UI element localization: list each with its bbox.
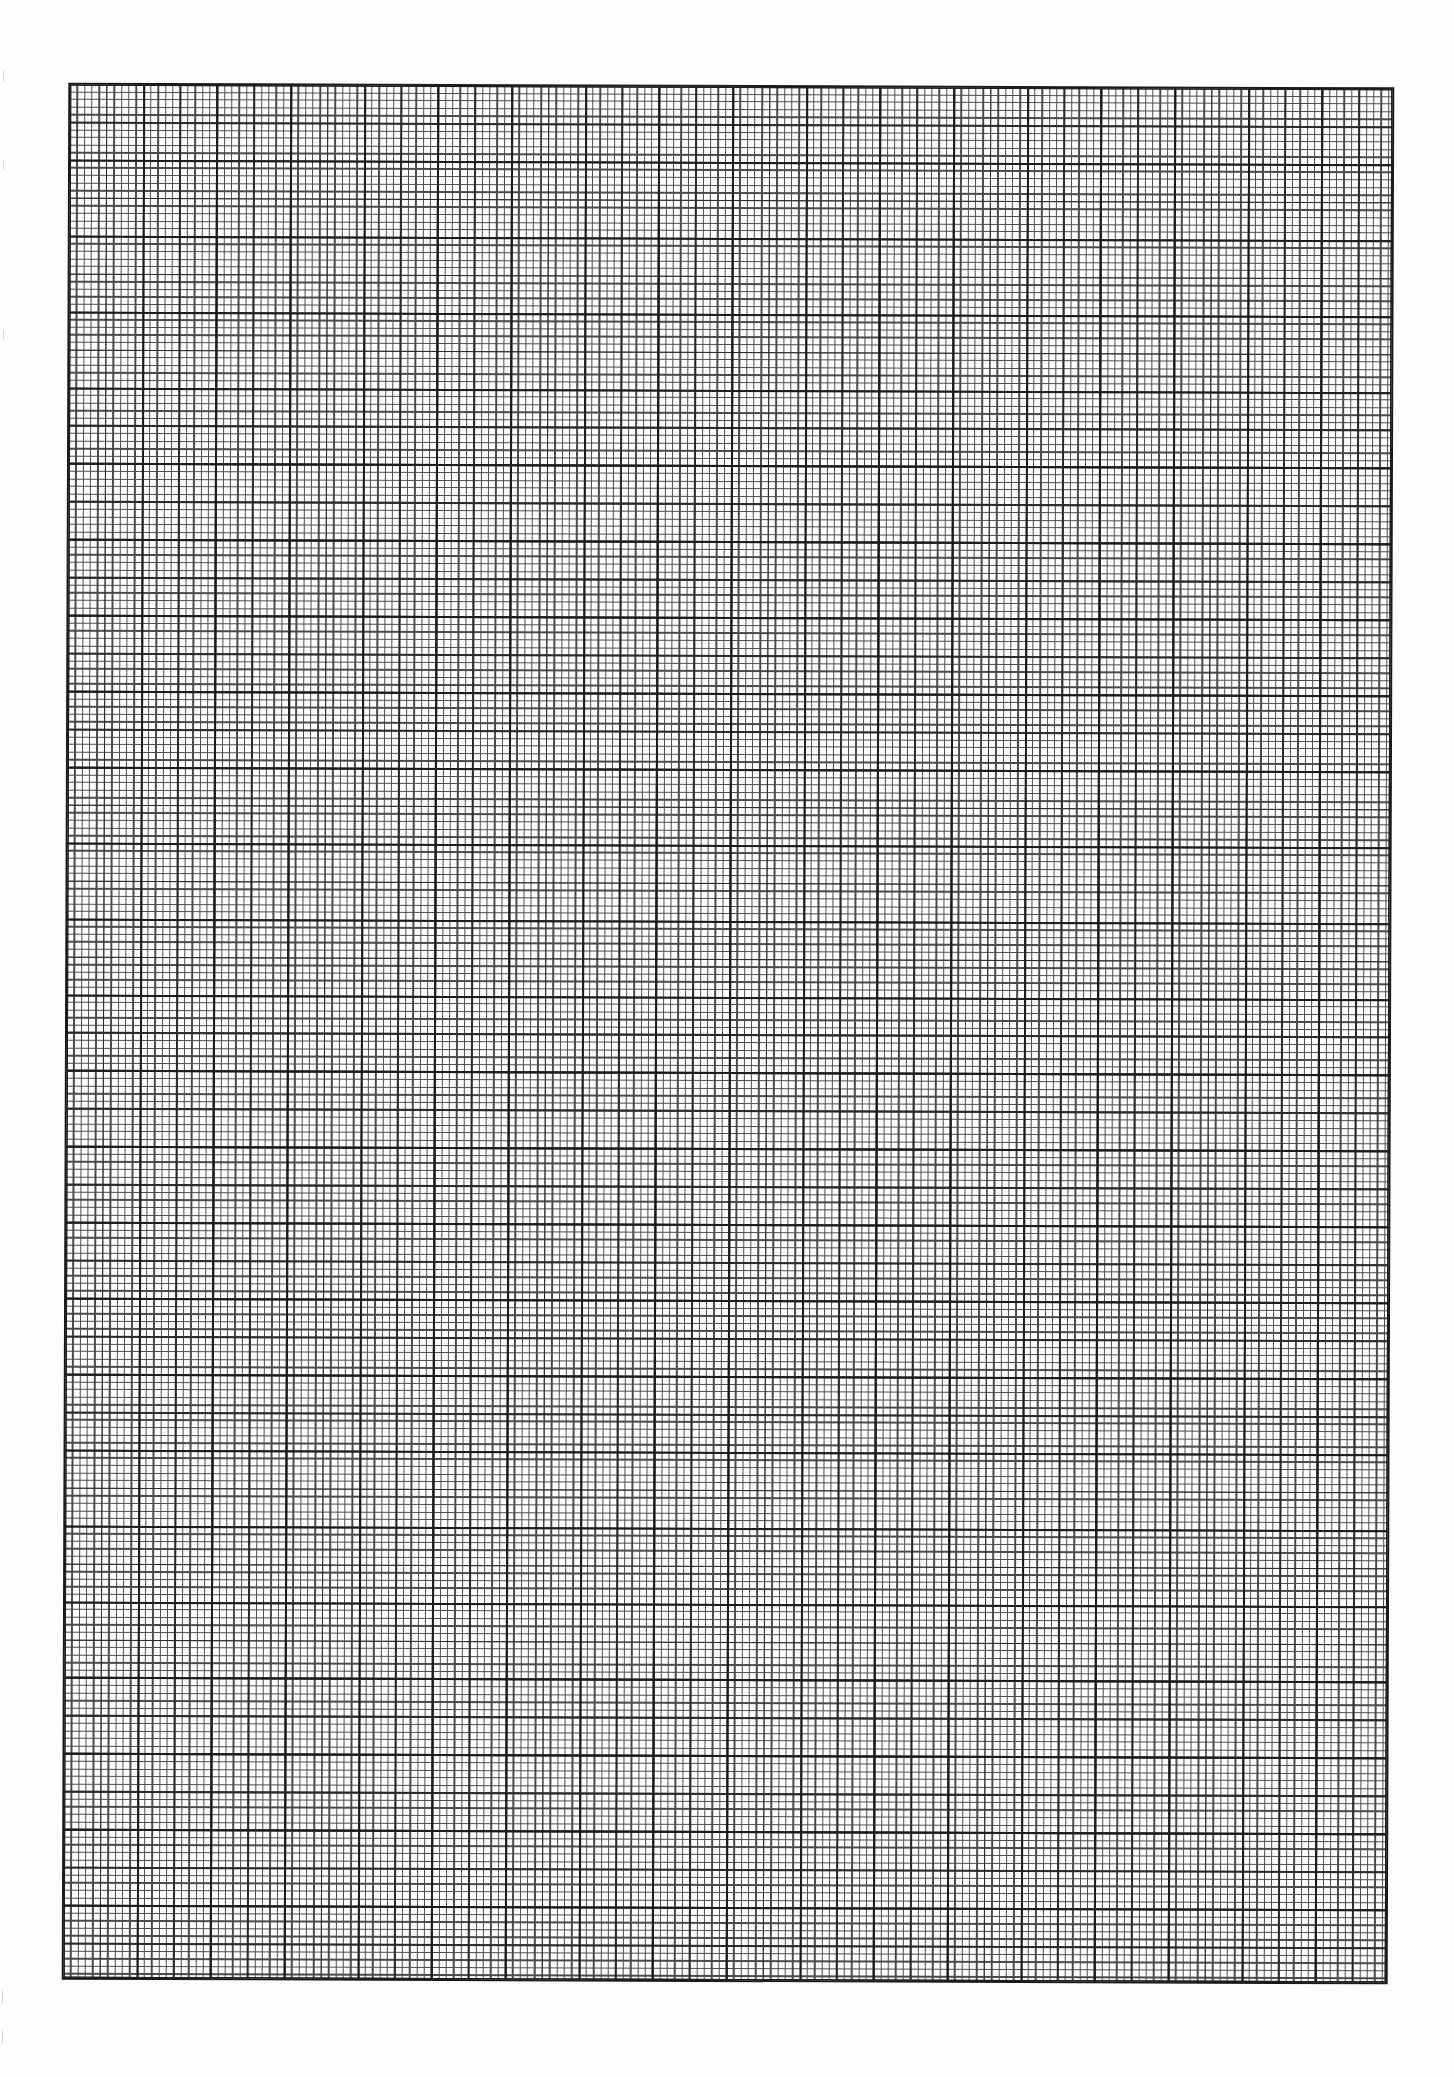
scan-speck (3, 330, 4, 340)
scan-speck (3, 160, 4, 170)
millimeter-grid (62, 83, 1395, 1985)
scan-speck (3, 70, 4, 82)
scan-speck (2, 1990, 3, 2004)
graph-paper-sheet (0, 0, 1454, 2077)
scan-speck (2, 2030, 3, 2044)
